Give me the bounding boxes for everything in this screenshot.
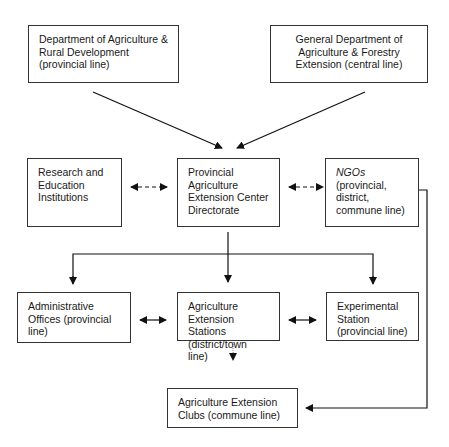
node-clubs: Agriculture Extension Clubs (commune lin… [167,388,298,428]
node-ngos-label: (provincial, district, commune line) [336,179,408,217]
edge-paecd-branch [73,254,373,282]
node-ngos-title: NGOs [336,166,408,179]
node-admin-label: Administrative Offices (provincial line) [28,300,120,338]
node-dard-label: Department of Agriculture & Rural Develo… [39,33,168,71]
node-dard: Department of Agriculture & Rural Develo… [28,25,179,83]
node-stations-label: Agriculture Extension Stations (district… [188,300,269,363]
node-ngos: NGOs (provincial, district, commune line… [325,158,419,227]
node-gdaf-label: General Department of Agriculture & Fore… [281,33,417,71]
node-experimental: Experimental Station (provincial line) [326,292,419,341]
node-experimental-label: Experimental Station (provincial line) [337,300,408,338]
node-paecd-label: Provincial Agriculture Extension Center … [188,166,269,216]
node-admin: Administrative Offices (provincial line) [17,292,131,343]
node-research-label: Research and Education Institutions [38,166,111,204]
node-gdaf: General Department of Agriculture & Fore… [270,25,428,83]
node-research: Research and Education Institutions [27,158,122,227]
node-stations: Agriculture Extension Stations (district… [177,292,280,341]
node-paecd: Provincial Agriculture Extension Center … [177,158,280,227]
edge-gdaf-to-paecd [237,92,365,148]
edge-dard-to-paecd [93,92,222,148]
node-clubs-label: Agriculture Extension Clubs (commune lin… [178,396,287,421]
